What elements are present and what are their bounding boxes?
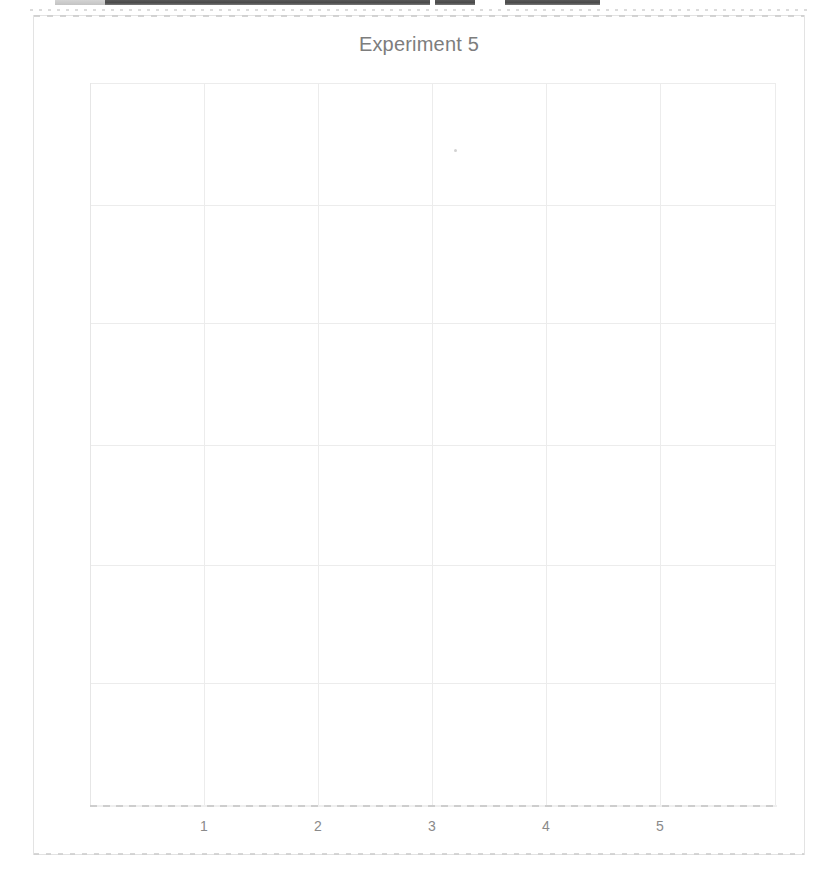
gridline-horizontal bbox=[90, 445, 775, 446]
chart-title: Experiment 5 bbox=[33, 33, 805, 56]
x-tick-label: 2 bbox=[298, 818, 338, 834]
scan-text-bar bbox=[55, 0, 105, 5]
gridline-horizontal bbox=[90, 683, 775, 684]
scan-text-bar bbox=[505, 0, 600, 5]
scan-speck-artifact bbox=[454, 149, 457, 152]
gridline-horizontal bbox=[90, 205, 775, 206]
x-axis-line bbox=[90, 805, 777, 807]
scan-speckle-line bbox=[30, 9, 810, 11]
gridline-vertical bbox=[546, 83, 547, 805]
x-tick-label: 5 bbox=[640, 818, 680, 834]
gridline-vertical bbox=[432, 83, 433, 805]
x-tick-label: 4 bbox=[526, 818, 566, 834]
scan-artifact-strip bbox=[0, 0, 840, 12]
plot-area bbox=[90, 83, 775, 805]
scan-text-bar bbox=[105, 0, 430, 5]
x-tick-label: 1 bbox=[184, 818, 224, 834]
gridline-vertical bbox=[660, 83, 661, 805]
gridline-horizontal bbox=[90, 565, 775, 566]
y-axis-line bbox=[90, 83, 91, 806]
gridline-vertical bbox=[204, 83, 205, 805]
gridline-horizontal bbox=[90, 323, 775, 324]
scan-text-bar bbox=[435, 0, 475, 5]
gridline-vertical bbox=[775, 83, 776, 805]
gridline-horizontal bbox=[90, 83, 775, 84]
gridline-vertical bbox=[318, 83, 319, 805]
x-tick-label: 3 bbox=[412, 818, 452, 834]
